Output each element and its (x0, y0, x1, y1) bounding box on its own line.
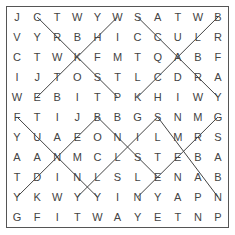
letter-cell[interactable]: T (128, 47, 148, 67)
letter-cell[interactable]: W (188, 7, 208, 27)
letter-cell[interactable]: F (27, 207, 47, 227)
letter-cell[interactable]: Y (87, 187, 107, 207)
letter-cell[interactable]: H (87, 27, 107, 47)
letter-cell[interactable]: F (208, 47, 228, 67)
letter-cell[interactable]: R (188, 67, 208, 87)
letter-cell[interactable]: E (27, 87, 47, 107)
letter-cell[interactable]: J (67, 107, 87, 127)
letter-cell[interactable]: H (148, 87, 168, 107)
letter-cell[interactable]: E (148, 207, 168, 227)
letter-cell[interactable]: W (47, 187, 67, 207)
letter-cell[interactable]: B (188, 147, 208, 167)
letter-cell[interactable]: B (67, 27, 87, 47)
letter-cell[interactable]: E (168, 147, 188, 167)
letter-cell[interactable]: W (87, 207, 107, 227)
letter-cell[interactable]: A (7, 147, 27, 167)
letter-cell[interactable]: F (7, 107, 27, 127)
letter-cell[interactable]: N (188, 207, 208, 227)
letter-cell[interactable]: S (208, 127, 228, 147)
letter-cell[interactable]: B (188, 47, 208, 67)
letter-cell[interactable]: C (27, 7, 47, 27)
letter-cell[interactable]: Y (67, 187, 87, 207)
letter-cell[interactable]: Y (7, 127, 27, 147)
letter-cell[interactable]: C (148, 27, 168, 47)
letter-cell[interactable]: B (208, 7, 228, 27)
letter-cell[interactable]: A (168, 47, 188, 67)
letter-cell[interactable]: G (208, 107, 228, 127)
letter-cell[interactable]: T (27, 107, 47, 127)
letter-cell[interactable]: U (168, 27, 188, 47)
letter-cell[interactable]: G (128, 107, 148, 127)
letter-cell[interactable]: K (27, 187, 47, 207)
letter-cell[interactable]: T (27, 47, 47, 67)
letter-cell[interactable]: C (128, 27, 148, 47)
letter-cell[interactable]: S (87, 67, 107, 87)
letter-cell[interactable]: P (208, 207, 228, 227)
letter-cell[interactable]: Q (148, 47, 168, 67)
letter-cell[interactable]: Y (27, 27, 47, 47)
letter-cell[interactable]: I (107, 27, 127, 47)
letter-cell[interactable]: T (148, 147, 168, 167)
letter-cell[interactable]: Y (128, 207, 148, 227)
letter-cell[interactable]: C (7, 47, 27, 67)
letter-cell[interactable]: I (67, 87, 87, 107)
letter-cell[interactable]: J (7, 7, 27, 27)
letter-cell[interactable]: N (208, 187, 228, 207)
letter-cell[interactable]: T (7, 167, 27, 187)
letter-cell[interactable]: S (128, 147, 148, 167)
letter-cell[interactable]: W (188, 87, 208, 107)
letter-cell[interactable]: N (128, 187, 148, 207)
letter-cell[interactable]: U (27, 127, 47, 147)
letter-cell[interactable]: Y (7, 187, 27, 207)
letter-cell[interactable]: K (128, 87, 148, 107)
letter-cell[interactable]: W (47, 47, 67, 67)
letter-cell[interactable]: I (47, 167, 67, 187)
letter-cell[interactable]: P (107, 87, 127, 107)
letter-cell[interactable]: A (27, 147, 47, 167)
letter-cell[interactable]: N (47, 147, 67, 167)
letter-cell[interactable]: N (168, 107, 188, 127)
letter-cell[interactable]: J (27, 67, 47, 87)
letter-cell[interactable]: L (107, 147, 127, 167)
letter-cell[interactable]: L (148, 127, 168, 147)
letter-cell[interactable]: I (47, 107, 67, 127)
letter-cell[interactable]: T (47, 7, 67, 27)
letter-cell[interactable]: A (107, 207, 127, 227)
letter-cell[interactable]: S (107, 167, 127, 187)
letter-cell[interactable]: R (208, 27, 228, 47)
letter-cell[interactable]: W (67, 7, 87, 27)
letter-cell[interactable]: D (27, 167, 47, 187)
letter-cell[interactable]: S (148, 107, 168, 127)
letter-cell[interactable]: A (208, 67, 228, 87)
letter-cell[interactable]: T (87, 87, 107, 107)
letter-cell[interactable]: T (168, 207, 188, 227)
letter-cell[interactable]: S (128, 7, 148, 27)
letter-cell[interactable]: N (168, 167, 188, 187)
letter-cell[interactable]: M (168, 127, 188, 147)
letter-cell[interactable]: A (47, 127, 67, 147)
letter-cell[interactable]: B (208, 167, 228, 187)
letter-cell[interactable]: C (87, 147, 107, 167)
letter-cell[interactable]: I (128, 127, 148, 147)
letter-cell[interactable]: T (107, 67, 127, 87)
letter-cell[interactable]: G (7, 207, 27, 227)
letter-cell[interactable]: I (7, 67, 27, 87)
letter-cell[interactable]: T (67, 207, 87, 227)
letter-cell[interactable]: T (47, 67, 67, 87)
letter-cell[interactable]: O (87, 127, 107, 147)
letter-cell[interactable]: W (7, 87, 27, 107)
letter-cell[interactable]: L (87, 167, 107, 187)
letter-cell[interactable]: O (67, 67, 87, 87)
letter-cell[interactable]: Y (87, 7, 107, 27)
letter-cell[interactable]: T (168, 7, 188, 27)
letter-cell[interactable]: D (168, 67, 188, 87)
letter-cell[interactable]: N (67, 167, 87, 187)
letter-cell[interactable]: I (168, 87, 188, 107)
letter-cell[interactable]: A (168, 187, 188, 207)
letter-cell[interactable]: A (188, 167, 208, 187)
letter-cell[interactable]: B (47, 87, 67, 107)
letter-cell[interactable]: B (107, 107, 127, 127)
letter-cell[interactable]: C (148, 67, 168, 87)
letter-cell[interactable]: K (67, 47, 87, 67)
letter-cell[interactable]: F (87, 47, 107, 67)
